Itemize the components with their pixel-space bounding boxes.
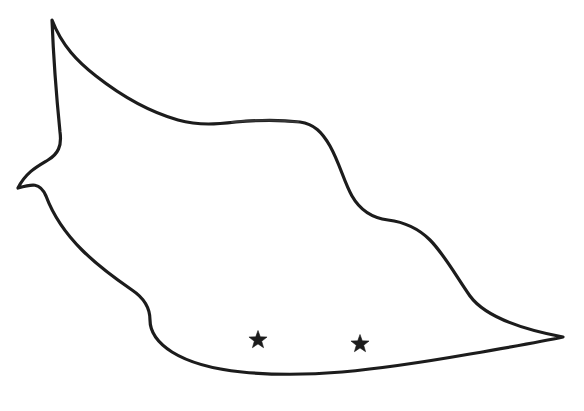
shape-figure	[0, 0, 584, 411]
figure-canvas	[0, 0, 584, 411]
